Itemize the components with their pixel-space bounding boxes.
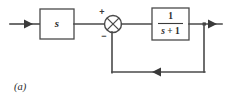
summing-junction-plus-sign: + [99,7,104,17]
input-arrowhead-icon [24,20,33,29]
summing-junction-minus-sign: − [101,31,106,41]
output-arrowhead-icon [208,20,217,29]
transfer-function-numerator: 1 [168,11,173,21]
feedback-arrowhead-icon [152,68,161,77]
derivative-block-label: s [54,17,59,29]
block-diagram-canvas: s + − 1 s + 1 (a) [0,0,230,102]
figure-caption: (a) [14,81,27,93]
block-diagram-figure: s + − 1 s + 1 (a) [0,0,230,102]
denominator-operator: + [165,26,175,36]
transfer-function-denominator: s + 1 [160,26,180,36]
denominator-constant: 1 [175,26,180,36]
